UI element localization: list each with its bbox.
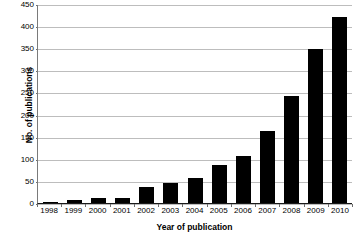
x-axis-tick-label: 2000	[85, 206, 109, 218]
y-axis-tick-label: 250	[2, 89, 34, 97]
bar-slot	[255, 5, 279, 203]
bar-slot	[38, 5, 62, 203]
y-axis-tick-label: 50	[2, 178, 34, 186]
x-axis-tick-label: 2002	[134, 206, 158, 218]
y-axis-tick-label: 350	[2, 45, 34, 53]
x-axis-tick-label: 2009	[304, 206, 328, 218]
bar-slot	[207, 5, 231, 203]
bar-1998	[43, 202, 58, 203]
bar-2004	[188, 178, 203, 203]
bar-2002	[139, 187, 154, 203]
y-axis-tick-label: 150	[2, 134, 34, 142]
x-axis-tick-label: 2001	[110, 206, 134, 218]
bar-1999	[67, 200, 82, 203]
y-axis-tick-label: 100	[2, 156, 34, 164]
bar-2000	[91, 198, 106, 203]
bar-slot	[135, 5, 159, 203]
bar-2009	[308, 49, 323, 203]
y-axis-tick-labels: 050100150200250300350400450	[2, 0, 34, 244]
x-axis-tick-label: 2006	[231, 206, 255, 218]
y-axis-tick-label: 300	[2, 67, 34, 75]
x-axis-tick-label: 1998	[37, 206, 61, 218]
bar-slot	[280, 5, 304, 203]
y-axis-tick-label: 0	[2, 200, 34, 208]
plot-area	[37, 5, 352, 204]
bar-2010	[332, 17, 347, 203]
bar-slot	[110, 5, 134, 203]
figure-bar-chart: No. of publications 05010015020025030035…	[0, 0, 359, 244]
x-axis-tick-label: 2007	[255, 206, 279, 218]
x-axis-tick-label: 1999	[61, 206, 85, 218]
bar-slot	[62, 5, 86, 203]
x-axis-tick-mark	[352, 204, 353, 207]
x-axis-tick-label: 2003	[158, 206, 182, 218]
x-axis-tick-label: 2004	[182, 206, 206, 218]
y-axis-tick-label: 400	[2, 23, 34, 31]
bar-2001	[115, 198, 130, 203]
bar-slot	[304, 5, 328, 203]
bar-2005	[212, 165, 227, 203]
bar-series	[38, 5, 352, 203]
x-axis-title: Year of publication	[37, 222, 352, 232]
bar-2007	[260, 131, 275, 203]
x-axis-tick-label: 2008	[279, 206, 303, 218]
x-axis-tick-labels: 1998199920002001200220032004200520062007…	[37, 206, 352, 218]
bar-2003	[163, 183, 178, 203]
bar-slot	[183, 5, 207, 203]
bar-2008	[284, 96, 299, 203]
y-axis-tick-label: 200	[2, 112, 34, 120]
bar-2006	[236, 156, 251, 203]
bar-slot	[159, 5, 183, 203]
figure-caption	[3, 237, 356, 244]
y-axis-tick-label: 450	[2, 1, 34, 9]
bar-slot	[86, 5, 110, 203]
x-axis-tick-label: 2010	[328, 206, 352, 218]
bar-slot	[328, 5, 352, 203]
bar-slot	[231, 5, 255, 203]
x-axis-tick-label: 2005	[207, 206, 231, 218]
